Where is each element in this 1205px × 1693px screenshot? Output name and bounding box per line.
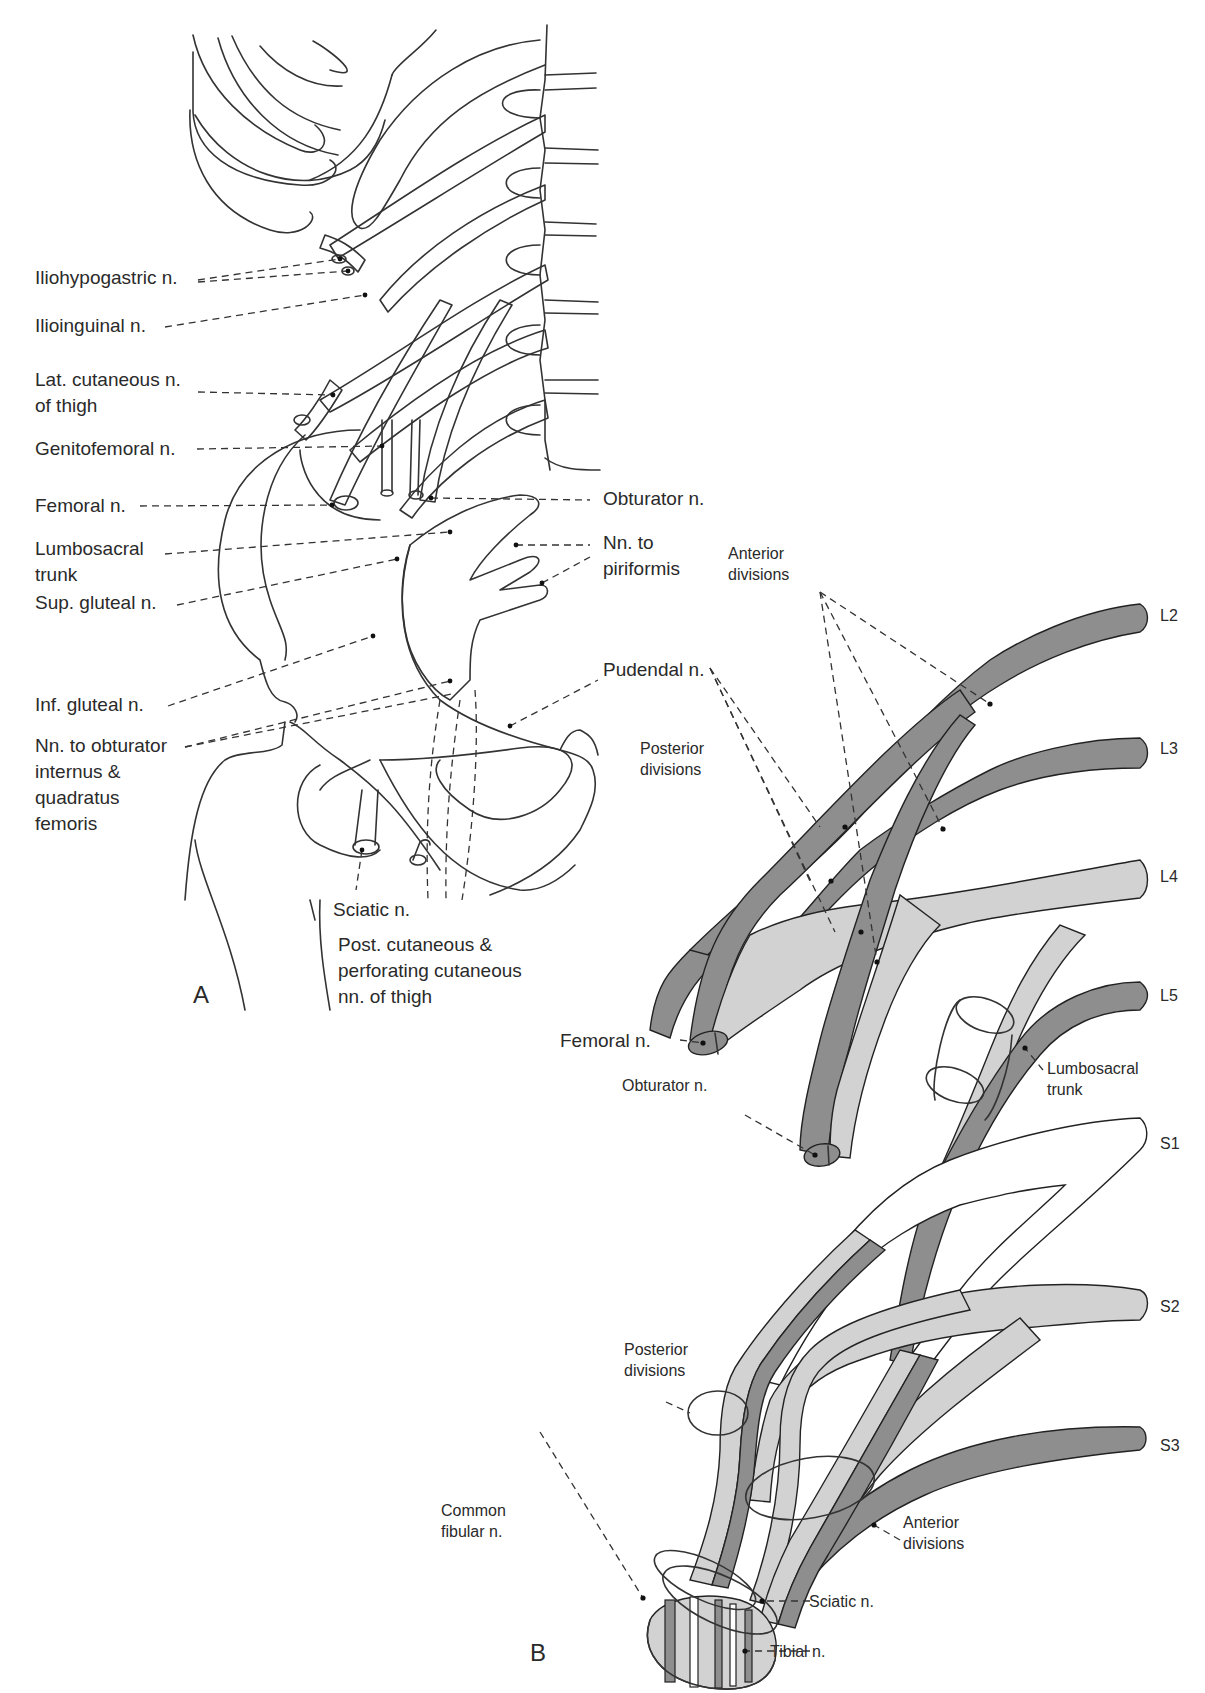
panel-label-a: A (193, 982, 209, 1008)
label-genitofemoral-n: Genitofemoral n. (35, 436, 175, 462)
label-anterior-divisions-top: Anterior divisions (728, 543, 789, 585)
label-root-s3: S3 (1160, 1435, 1180, 1456)
rib-cage (190, 30, 436, 233)
label-femoral-n: Femoral n. (35, 493, 126, 519)
label-root-l2: L2 (1160, 605, 1178, 626)
label-obturator-n: Obturator n. (603, 486, 704, 512)
label-lat-cutaneous-n-of-thigh: Lat. cutaneous n. of thigh (35, 367, 181, 419)
label-root-l3: L3 (1160, 738, 1178, 759)
label-obturator-n-b: Obturator n. (622, 1075, 707, 1096)
label-root-s1: S1 (1160, 1133, 1180, 1154)
label-post-cutaneous-perforating: Post. cutaneous & perforating cutaneous … (338, 932, 522, 1010)
label-anterior-divisions-bottom: Anterior divisions (903, 1512, 964, 1554)
panel-label-b: B (530, 1640, 546, 1666)
panel-b-drawing (540, 592, 1148, 1689)
label-lumbosacral-trunk: Lumbosacral trunk (35, 536, 144, 588)
label-posterior-divisions-top: Posterior divisions (640, 738, 704, 780)
label-root-l4: L4 (1160, 866, 1178, 887)
label-inf-gluteal-n: Inf. gluteal n. (35, 692, 144, 718)
label-sciatic-n-a: Sciatic n. (333, 897, 410, 923)
label-root-l5: L5 (1160, 985, 1178, 1006)
panel-a-drawing (140, 25, 600, 1010)
label-nn-to-piriformis: Nn. to piriformis (603, 530, 680, 582)
label-femoral-n-b: Femoral n. (560, 1028, 651, 1054)
label-tibial-n: Tibial n. (770, 1641, 825, 1662)
label-ilioinguinal-n: Ilioinguinal n. (35, 313, 146, 339)
nerve-plexus-figure (0, 0, 1205, 1693)
label-lumbosacral-trunk-b: Lumbosacral trunk (1047, 1058, 1139, 1100)
label-sup-gluteal-n: Sup. gluteal n. (35, 590, 156, 616)
pelvis-outline (185, 430, 598, 1010)
label-pudendal-n: Pudendal n. (603, 657, 704, 683)
label-nn-to-obturator-internus-quadratus-femoris: Nn. to obturator internus & quadratus fe… (35, 733, 167, 837)
label-common-fibular-n: Common fibular n. (441, 1500, 506, 1542)
nerve-cut-ends (294, 255, 423, 510)
label-root-s2: S2 (1160, 1296, 1180, 1317)
label-sciatic-n-b: Sciatic n. (809, 1591, 874, 1612)
label-posterior-divisions-bottom: Posterior divisions (624, 1339, 688, 1381)
label-iliohypogastric-n: Iliohypogastric n. (35, 265, 178, 291)
